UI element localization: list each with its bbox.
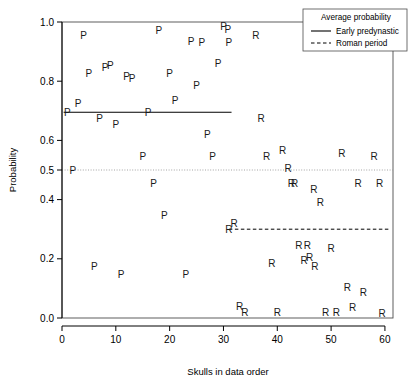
data-point-R: R — [371, 151, 378, 162]
data-point-R: R — [295, 240, 302, 251]
average-probability-lines — [62, 112, 393, 229]
data-point-P: P — [150, 178, 157, 189]
data-point-R: R — [333, 307, 340, 318]
data-point-P: P — [172, 95, 179, 106]
data-point-R: R — [317, 197, 324, 208]
data-point-R: R — [279, 145, 286, 156]
data-point-P: P — [209, 151, 216, 162]
y-tick-label: 1.0 — [40, 17, 54, 28]
legend-title: Average probability — [321, 13, 392, 22]
data-point-P: P — [182, 269, 189, 280]
y-axis-title: Probability — [7, 148, 18, 193]
x-tick-label: 50 — [326, 334, 338, 345]
y-tick-label: 0.2 — [40, 253, 54, 264]
data-point-P: P — [161, 210, 168, 221]
data-point-P: P — [69, 165, 76, 176]
data-point-P: P — [226, 37, 233, 48]
data-point-P: P — [193, 80, 200, 91]
data-point-P: P — [224, 24, 231, 35]
data-point-R: R — [291, 178, 298, 189]
scatter-plot-figure: PPPPPPPPPPPPPPPPPPPPPPPPPPPPPPRRRRRRRRRR… — [0, 0, 411, 384]
data-point-P: P — [166, 68, 173, 79]
data-point-R: R — [311, 261, 318, 272]
data-point-P: P — [139, 151, 146, 162]
data-point-R: R — [344, 282, 351, 293]
data-point-R: R — [379, 308, 386, 319]
data-point-R: R — [304, 240, 311, 251]
data-point-R: R — [284, 163, 291, 174]
x-tick-label: 40 — [272, 334, 284, 345]
data-point-R: R — [252, 30, 259, 41]
data-point-P: P — [118, 269, 125, 280]
legend-label-early-predynastic: Early predynastic — [336, 27, 399, 36]
data-point-R: R — [241, 307, 248, 318]
y-tick-label: 0.6 — [40, 135, 54, 146]
x-tick-label: 0 — [59, 334, 65, 345]
data-point-R: R — [354, 178, 361, 189]
data-point-P: P — [91, 261, 98, 272]
data-point-R: R — [322, 307, 329, 318]
data-point-P: P — [199, 37, 206, 48]
chart-canvas: PPPPPPPPPPPPPPPPPPPPPPPPPPPPPPRRRRRRRRRR… — [0, 0, 411, 384]
data-point-P: P — [112, 119, 119, 130]
y-tick-label: 0.0 — [40, 313, 54, 324]
data-point-R: R — [327, 243, 334, 254]
data-point-P: P — [145, 107, 152, 118]
x-tick-label: 60 — [379, 334, 391, 345]
legend: Average probability Early predynastic Ro… — [303, 9, 407, 51]
y-axis: 0.00.20.40.50.60.81.0 — [40, 17, 62, 324]
y-tick-label: 0.8 — [40, 76, 54, 87]
data-point-R: R — [258, 113, 265, 124]
data-point-R: R — [376, 178, 383, 189]
data-point-P: P — [80, 30, 87, 41]
data-point-P: P — [129, 73, 136, 84]
data-point-P: P — [204, 129, 211, 140]
y-tick-label: 0.4 — [40, 194, 54, 205]
series-early-predynastic: PPPPPPPPPPPPPPPPPPPPPPPPPPPPPP — [64, 21, 232, 280]
x-tick-label: 20 — [164, 334, 176, 345]
data-point-P: P — [156, 25, 163, 36]
data-point-R: R — [338, 148, 345, 159]
data-point-P: P — [188, 36, 195, 47]
data-point-R: R — [231, 218, 238, 229]
data-point-R: R — [274, 307, 281, 318]
x-tick-label: 30 — [218, 334, 230, 345]
y-tick-label: 0.5 — [40, 165, 54, 176]
data-point-R: R — [268, 258, 275, 269]
x-axis: 0102030405060 — [59, 326, 391, 345]
data-point-P: P — [86, 68, 93, 79]
series-roman-period: RRRRRRRRRRRRRRRRRRRRRRRRRRRRRRR — [225, 30, 386, 319]
data-point-R: R — [310, 184, 317, 195]
data-point-P: P — [64, 107, 71, 118]
data-point-R: R — [263, 151, 270, 162]
data-point-R: R — [360, 287, 367, 298]
data-point-P: P — [96, 113, 103, 124]
data-point-P: P — [75, 98, 82, 109]
data-point-R: R — [349, 302, 356, 313]
x-tick-label: 10 — [110, 334, 122, 345]
x-axis-title: Skulls in data order — [187, 366, 268, 377]
data-point-P: P — [107, 60, 114, 71]
legend-label-roman-period: Roman period — [336, 39, 388, 48]
data-point-P: P — [215, 58, 222, 69]
